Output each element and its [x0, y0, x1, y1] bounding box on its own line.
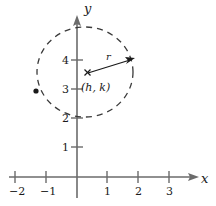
x-tick-label-3: 3	[166, 186, 173, 197]
center-coordinates-label: (h, k)	[81, 82, 110, 93]
y-tick-label-3: 3	[62, 84, 69, 95]
y-tick-label-2: 2	[62, 113, 69, 124]
dashed-circle	[37, 27, 133, 117]
x-tick-label-2: 2	[135, 186, 142, 197]
point-marker-dot	[33, 88, 38, 93]
x-axis-label: x	[201, 172, 208, 185]
y-axis-label: y	[84, 2, 91, 15]
radius-label: r	[106, 52, 111, 62]
x-axis	[9, 171, 199, 183]
circle-diagram-figure: y x −2 −1 1 2 3 1 2 3 4 r (h, k)	[0, 0, 216, 206]
x-tick-label--1: −1	[40, 186, 56, 197]
plot-canvas	[0, 0, 216, 206]
y-axis	[71, 15, 83, 198]
y-tick-label-1: 1	[62, 142, 69, 153]
y-tick-label-4: 4	[62, 55, 69, 66]
x-tick-label--2: −2	[9, 186, 25, 197]
x-tick-label-1: 1	[104, 186, 111, 197]
